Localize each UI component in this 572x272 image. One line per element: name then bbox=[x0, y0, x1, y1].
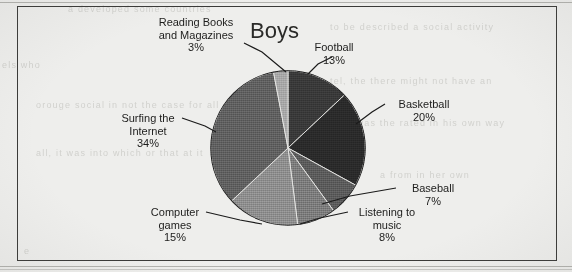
slice-label-football: Football 13% bbox=[303, 41, 365, 66]
slice-label-line-1: Baseball bbox=[412, 182, 454, 194]
slice-label-surfing-internet: Surfing the Internet 34% bbox=[112, 112, 184, 150]
slice-label-computer-games: Computer games 15% bbox=[140, 206, 210, 244]
page-rule-top bbox=[0, 2, 572, 3]
slice-label-value: 13% bbox=[303, 54, 365, 67]
pie-chart bbox=[210, 70, 366, 226]
slice-label-line-1: Reading Books bbox=[159, 16, 234, 28]
slice-label-value: 3% bbox=[146, 41, 246, 54]
slice-label-value: 8% bbox=[349, 231, 425, 244]
slice-label-reading-books: Reading Books and Magazines 3% bbox=[146, 16, 246, 54]
slice-label-basketball: Basketball 20% bbox=[387, 98, 461, 123]
slice-label-value: 34% bbox=[112, 137, 184, 150]
slice-label-line-1: Listening to bbox=[359, 206, 415, 218]
slice-label-line-2: games bbox=[158, 219, 191, 231]
pie-svg bbox=[210, 70, 366, 226]
slice-label-baseball: Baseball 7% bbox=[402, 182, 464, 207]
slice-label-line-2: music bbox=[373, 219, 402, 231]
page-rule-bottom bbox=[0, 266, 572, 267]
slice-label-value: 15% bbox=[140, 231, 210, 244]
slice-label-line-1: Computer bbox=[151, 206, 199, 218]
slice-label-line-1: Surfing the bbox=[121, 112, 174, 124]
slice-label-line-1: Basketball bbox=[399, 98, 450, 110]
chart-title: Boys bbox=[250, 18, 299, 44]
slice-label-line-1: Football bbox=[314, 41, 353, 53]
slice-label-listening-music: Listening to music 8% bbox=[349, 206, 425, 244]
slice-label-line-2: Internet bbox=[129, 125, 166, 137]
slice-label-line-2: and Magazines bbox=[159, 29, 234, 41]
page-rule-bottom-2 bbox=[0, 269, 572, 270]
slice-label-value: 20% bbox=[387, 111, 461, 124]
pie-slices bbox=[211, 71, 365, 225]
